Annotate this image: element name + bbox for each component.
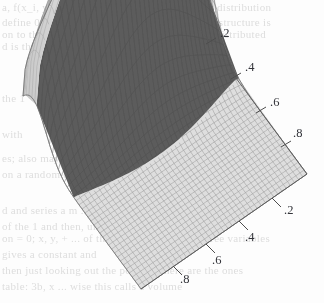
axis-tick-label: .6 xyxy=(270,95,279,110)
axis-tick xyxy=(272,198,281,207)
axis-tick xyxy=(206,244,215,253)
axis-tick-label: .4 xyxy=(245,230,254,245)
axis-tick-label: .6 xyxy=(212,253,221,268)
axis-tick xyxy=(239,221,248,230)
surface-plot-canvas xyxy=(0,0,324,303)
axis-tick-label: .2 xyxy=(220,26,229,41)
surface-plot xyxy=(0,0,324,303)
figure-root: a, f(x_i, y_j) = f(x_i) + f(y_j) is a pr… xyxy=(0,0,324,303)
axis-tick-label: .4 xyxy=(245,60,254,75)
axis-tick-label: .8 xyxy=(180,272,189,287)
axis-tick-label: .2 xyxy=(284,203,293,218)
axis-tick-label: .8 xyxy=(293,126,302,141)
